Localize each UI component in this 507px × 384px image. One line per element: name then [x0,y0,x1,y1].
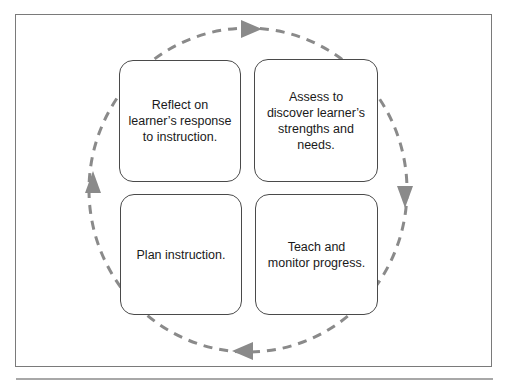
arrow-left-icon [232,342,253,360]
step-reflect-label: Reflect on learner’s response to instruc… [128,97,231,145]
step-reflect-box: Reflect on learner’s response to instruc… [119,60,241,182]
step-plan-box: Plan instruction. [120,194,242,315]
arrow-right-icon [241,20,262,38]
arrow-down-icon [397,186,413,208]
arrow-up-icon [85,171,101,193]
step-teach-box: Teach and monitor progress. [255,194,378,315]
step-teach-label: Teach and monitor progress. [268,239,365,271]
bottom-divider [16,378,493,380]
step-assess-box: Assess to discover learner’s strengths a… [254,59,378,182]
step-assess-label: Assess to discover learner’s strengths a… [267,89,365,153]
step-plan-label: Plan instruction. [137,247,226,263]
cycle-dashed-circle [0,0,507,384]
